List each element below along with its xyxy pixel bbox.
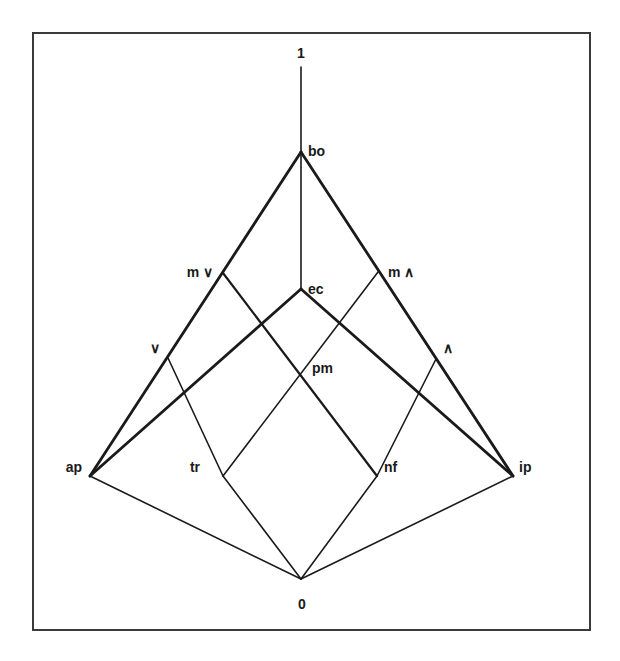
edge-tr-zero	[223, 476, 301, 579]
node-label-mw: m ∧	[388, 264, 414, 280]
edge-ip-zero	[301, 476, 513, 579]
node-label-w: ∧	[443, 340, 453, 356]
edge-ec-ap	[90, 289, 301, 476]
node-label-tr: tr	[190, 459, 201, 475]
node-label-ip: ip	[519, 459, 531, 475]
node-label-v: ∨	[150, 340, 160, 356]
lattice-edges	[90, 67, 513, 579]
node-label-bo: bo	[308, 143, 325, 159]
edge-ec-ip	[301, 289, 513, 476]
node-label-ap: ap	[66, 459, 82, 475]
node-label-zero: 0	[298, 596, 306, 612]
node-label-pm: pm	[312, 360, 333, 376]
edge-bo-ip	[301, 152, 513, 476]
lattice-diagram: 1bom ∨m ∧ec∨∧pmaptrnfip0	[0, 0, 620, 661]
edge-bo-ap	[90, 152, 301, 476]
node-label-one: 1	[297, 45, 305, 61]
diagram-frame	[33, 33, 590, 630]
edge-ap-zero	[90, 476, 301, 579]
node-label-nf: nf	[384, 459, 398, 475]
node-label-ec: ec	[308, 281, 324, 297]
edge-nf-zero	[301, 476, 377, 579]
node-label-mv: m ∨	[187, 264, 213, 280]
lattice-labels: 1bom ∨m ∧ec∨∧pmaptrnfip0	[66, 45, 532, 612]
